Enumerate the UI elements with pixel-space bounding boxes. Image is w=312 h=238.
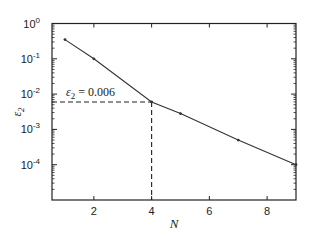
- data-point-marker: [150, 101, 153, 104]
- x-tick-label: 2: [91, 205, 97, 217]
- plot-area-frame: [52, 24, 296, 201]
- data-point-marker: [295, 163, 298, 166]
- y-tick-label: 10-3: [21, 121, 41, 135]
- series-line: [65, 40, 296, 165]
- x-tick-label: 8: [264, 205, 270, 217]
- y-tick-label: 10-4: [21, 157, 41, 171]
- data-point-marker: [92, 57, 95, 60]
- y-tick-label: 100: [23, 16, 40, 30]
- annotation-label: ε2 = 0.006: [66, 85, 115, 101]
- data-point-marker: [237, 139, 240, 142]
- data-point-marker: [179, 112, 182, 115]
- x-tick-label: 6: [206, 205, 212, 217]
- x-tick-label: 4: [149, 205, 155, 217]
- data-point-marker: [64, 38, 67, 41]
- y-tick-label: 10-1: [21, 51, 41, 65]
- y-tick-label: 10-2: [21, 86, 41, 100]
- y-axis-label: ε2: [10, 107, 26, 117]
- x-axis-label: N: [169, 216, 180, 231]
- chart: 246810010-110-210-310-4ε2 = 0.006Nε2: [0, 0, 312, 238]
